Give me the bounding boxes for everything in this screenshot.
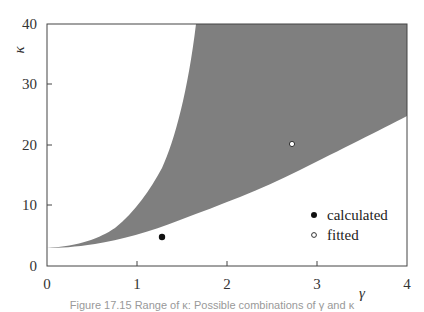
y-tick-40: 40 <box>22 16 37 32</box>
y-tick-30: 30 <box>22 76 37 92</box>
legend-fitted-label: fitted <box>327 227 359 243</box>
x-tick-1: 1 <box>133 276 141 292</box>
x-tick-4: 4 <box>403 276 411 292</box>
y-tick-10: 10 <box>22 197 37 213</box>
x-ticks <box>137 261 317 266</box>
x-tick-0: 0 <box>43 276 51 292</box>
y-axis-label: κ <box>11 46 27 54</box>
y-tick-0: 0 <box>30 258 38 274</box>
fitted-point <box>289 141 294 146</box>
legend: calculated fitted <box>311 207 388 243</box>
calculated-point <box>159 234 165 240</box>
x-tick-3: 3 <box>313 276 321 292</box>
legend-fitted-marker <box>312 233 317 238</box>
y-ticks <box>47 84 52 205</box>
chart-canvas: 0 1 2 3 4 0 10 20 30 40 γ κ calculated f… <box>0 0 424 312</box>
figure-caption: Figure 17.15 Range of κ: Possible combin… <box>0 299 424 311</box>
y-tick-20: 20 <box>22 137 37 153</box>
legend-calculated-marker <box>311 212 317 218</box>
legend-calculated-label: calculated <box>327 207 388 223</box>
x-tick-2: 2 <box>223 276 231 292</box>
